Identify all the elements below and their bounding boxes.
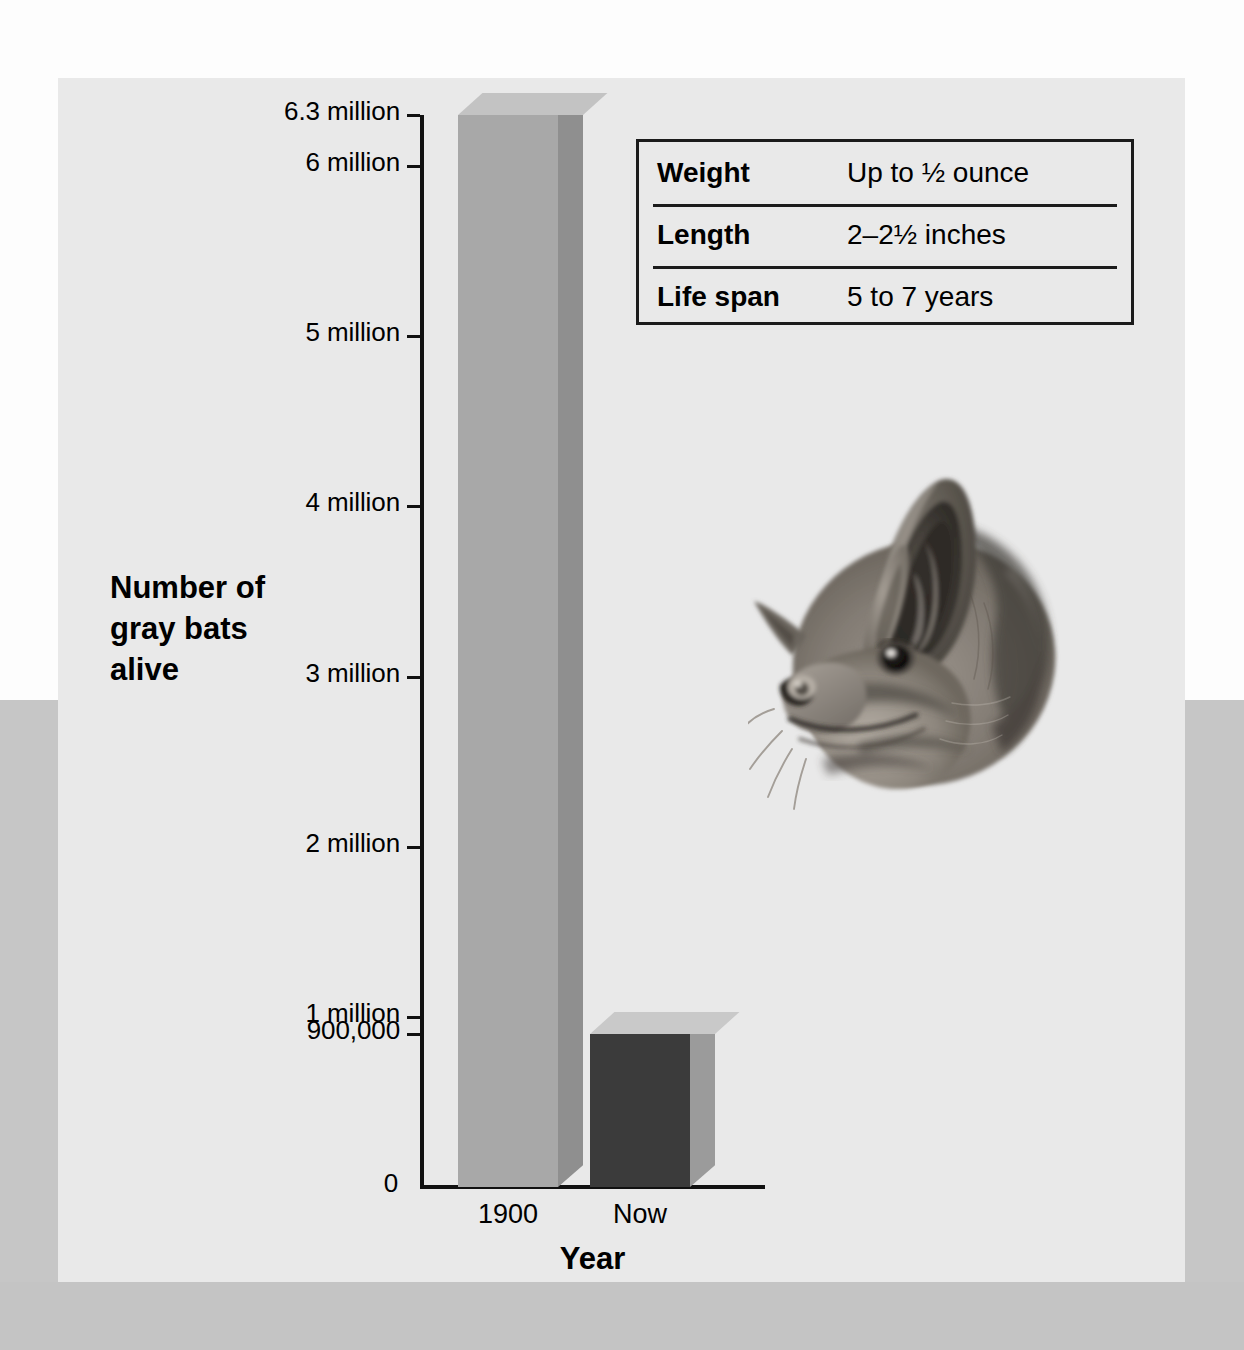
y-axis-title: Number of gray bats alive xyxy=(110,568,340,691)
bat-facts-table: Weight Up to ½ ounce Length 2–2½ inches … xyxy=(636,139,1134,325)
bar-side-face xyxy=(558,93,583,1187)
y-axis-tick-label: 2 million xyxy=(306,828,400,859)
y-axis-title-line-3: alive xyxy=(110,650,340,691)
bar-top-face xyxy=(458,93,607,115)
backdrop-band-bottom xyxy=(0,1282,1244,1350)
y-axis-tick-mark xyxy=(407,335,420,338)
y-axis-tick-mark xyxy=(407,676,420,679)
y-axis-tick-mark xyxy=(407,1016,420,1019)
bar-front-face xyxy=(590,1034,690,1187)
y-axis-tick-mark xyxy=(407,505,420,508)
y-axis-tick-mark xyxy=(407,1033,420,1036)
fact-value-length: 2–2½ inches xyxy=(847,219,1006,251)
table-row: Life span 5 to 7 years xyxy=(639,266,1131,328)
x-axis-tick-label-1900: 1900 xyxy=(448,1199,568,1230)
y-axis-title-line-1: Number of xyxy=(110,568,340,609)
y-axis-title-line-2: gray bats xyxy=(110,609,340,650)
x-axis-title: Year xyxy=(420,1241,765,1277)
table-row: Weight Up to ½ ounce xyxy=(639,142,1131,204)
bar-top-face xyxy=(590,1012,739,1034)
y-axis-tick-label: 4 million xyxy=(306,487,400,518)
bar-1900 xyxy=(458,93,583,1187)
fact-label-weight: Weight xyxy=(657,157,847,189)
y-axis-tick-label: 6 million xyxy=(306,147,400,178)
y-axis-tick-label: 0 xyxy=(384,1168,398,1199)
fact-value-weight: Up to ½ ounce xyxy=(847,157,1029,189)
y-axis-line xyxy=(420,115,424,1189)
y-axis-tick-mark xyxy=(407,114,420,117)
y-axis-tick-mark xyxy=(407,165,420,168)
y-axis-tick-label: 5 million xyxy=(306,317,400,348)
x-axis-tick-label-now: Now xyxy=(580,1199,700,1230)
y-axis-tick-label: 900,000 xyxy=(307,1015,400,1046)
fact-value-lifespan: 5 to 7 years xyxy=(847,281,993,313)
bar-now xyxy=(590,1012,715,1187)
y-axis-tick-label: 6.3 million xyxy=(284,96,400,127)
y-axis-tick-mark xyxy=(407,846,420,849)
bar-front-face xyxy=(458,115,558,1187)
table-row: Length 2–2½ inches xyxy=(639,204,1131,266)
chart-panel: 6.3 million6 million5 million4 million3 … xyxy=(58,78,1185,1282)
fact-label-length: Length xyxy=(657,219,847,251)
gray-bat-head-illustration xyxy=(748,453,1078,823)
fact-label-lifespan: Life span xyxy=(657,281,847,313)
bar-side-face xyxy=(690,1012,715,1187)
